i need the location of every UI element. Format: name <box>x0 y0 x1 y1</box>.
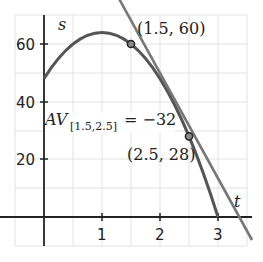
av-annotation-value: = −32 <box>124 110 176 129</box>
y-axis-label: s <box>58 15 66 34</box>
x-tick-2: 2 <box>155 226 165 244</box>
point-label-2: (2.5, 28) <box>127 145 195 164</box>
av-annotation-main: AV <box>43 110 69 129</box>
av-annotation-subscript: [1.5,2.5] <box>70 120 117 133</box>
point-label-1: (1.5, 60) <box>137 19 205 38</box>
point-1-5-60 <box>127 40 134 47</box>
point-2-5-28 <box>185 133 192 140</box>
x-tick-1: 1 <box>97 226 107 244</box>
y-tick-40: 40 <box>16 94 35 112</box>
x-tick-3: 3 <box>213 226 223 244</box>
y-tick-60: 60 <box>16 36 35 54</box>
chart: 60 40 20 1 2 3 s t (1.5, 60) (2.5, 28) A… <box>0 0 263 262</box>
y-tick-20: 20 <box>16 151 35 169</box>
